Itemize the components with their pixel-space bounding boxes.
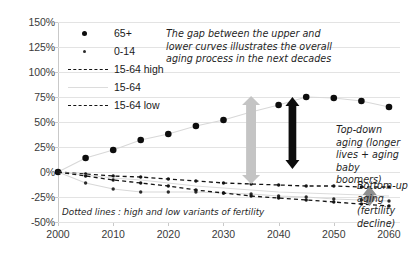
legend-label: 15-64 high: [110, 63, 164, 75]
x-axis-tick-label: 2050: [307, 228, 361, 240]
y-axis-tick-label: -25%: [3, 191, 55, 203]
x-axis-tick-label: 2010: [86, 228, 140, 240]
annotation-bottom-up: Bottom-up aging (fertility decline): [357, 180, 409, 230]
legend-label: 65+: [110, 27, 132, 39]
legend-item: 0-14: [66, 42, 164, 60]
legend-item: 15-64: [66, 78, 164, 96]
legend-marker-icon: [66, 96, 110, 114]
chart-legend: 65+0-1415-64 high15-6415-64 low: [66, 24, 164, 114]
legend-marker-icon: [66, 42, 110, 60]
legend-marker-icon: [66, 60, 110, 78]
legend-label: 15-64: [110, 81, 141, 93]
legend-label: 15-64 low: [110, 99, 160, 111]
legend-solid-icon: [68, 87, 108, 88]
annotation-main-note: The gap between the upper and lower curv…: [166, 28, 336, 66]
legend-small-dot-icon: [83, 50, 86, 53]
annotation-dotted-note: Dotted lines : high and low variants of …: [62, 206, 272, 219]
legend-item: 65+: [66, 24, 164, 42]
legend-item: 15-64 low: [66, 96, 164, 114]
legend-item: 15-64 high: [66, 60, 164, 78]
y-axis-tick-label: 150%: [3, 16, 55, 28]
legend-marker-icon: [66, 78, 110, 96]
x-axis-tick-label: 2020: [141, 228, 195, 240]
y-axis-tick-label: 75%: [3, 91, 55, 103]
x-axis-tick-label: 2030: [196, 228, 250, 240]
y-axis: 150%125%100%75%50%25%0%-25%-50%: [0, 22, 55, 222]
legend-label: 0-14: [110, 45, 135, 57]
gap-arrow: [242, 96, 260, 184]
legend-marker-icon: [66, 24, 110, 42]
y-axis-tick-label: 100%: [3, 66, 55, 78]
legend-dot-icon: [82, 31, 87, 36]
annotation-top-down: Top-down aging (longer lives + aging bab…: [336, 124, 408, 187]
top-down-arrow: [285, 97, 299, 169]
y-axis-tick-label: 125%: [3, 41, 55, 53]
legend-dash-icon: [68, 69, 108, 70]
legend-dash-icon: [68, 105, 108, 106]
y-axis-tick-label: 0%: [3, 166, 55, 178]
y-axis-tick-label: 50%: [3, 116, 55, 128]
gridline: [58, 222, 400, 223]
y-axis-tick-label: 25%: [3, 141, 55, 153]
y-axis-tick-label: -50%: [3, 216, 55, 228]
x-axis-tick-label: 2000: [31, 228, 85, 240]
x-axis-tick-label: 2040: [252, 228, 306, 240]
